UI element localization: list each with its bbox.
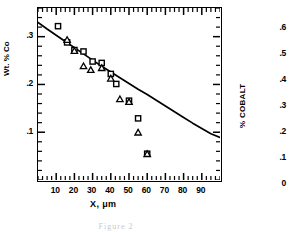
x-tick-label: 80: [178, 185, 187, 195]
data-point-triangle: [117, 96, 123, 102]
side-tick-label: .6: [280, 22, 287, 32]
x-tick-label: 60: [142, 185, 151, 195]
data-point-square: [90, 59, 95, 64]
plot-frame: [37, 7, 222, 182]
data-point-triangle: [80, 63, 86, 69]
figure-caption: Figure 2: [0, 222, 232, 231]
side-tick-label: .3: [280, 100, 287, 110]
x-tick-label: 40: [105, 185, 114, 195]
side-tick-label: .1: [280, 152, 287, 162]
y-axis-title: Wt. % Co: [2, 6, 11, 76]
axis-ticks: [38, 8, 220, 180]
y-tick-label: .1: [0, 127, 33, 136]
figure-container: Wt. % Co .3.2.1 102030405060708090 X, μm…: [0, 0, 292, 232]
side-axis-title: % COBALT: [238, 84, 247, 128]
side-tick-label: .5: [280, 48, 287, 58]
data-point-square: [136, 116, 141, 121]
side-tick-label: .2: [280, 126, 287, 136]
side-tick-label: .4: [280, 74, 287, 84]
side-tick-label: 0: [282, 178, 286, 188]
x-axis-title: X, μm: [90, 199, 117, 209]
data-markers: [55, 24, 150, 157]
x-tick-label: 20: [69, 185, 78, 195]
y-tick-label: .2: [0, 79, 33, 88]
data-point-triangle: [135, 129, 141, 135]
data-point-triangle: [64, 37, 70, 43]
data-point-square: [81, 49, 86, 54]
y-tick-label: .3: [0, 31, 33, 40]
x-tick-label: 70: [160, 185, 169, 195]
data-point-square: [114, 81, 119, 86]
x-tick-label: 10: [51, 185, 60, 195]
main-chart: Wt. % Co .3.2.1 102030405060708090 X, μm: [0, 0, 232, 215]
x-tick-label: 90: [196, 185, 205, 195]
side-chart-cropped: % COBALT .6.5.4.3.2.10: [232, 0, 292, 215]
data-point-square: [55, 24, 60, 29]
x-tick-label: 30: [87, 185, 96, 195]
x-tick-label: 50: [123, 185, 132, 195]
data-point-triangle: [88, 67, 94, 73]
plot-canvas: [38, 8, 220, 180]
